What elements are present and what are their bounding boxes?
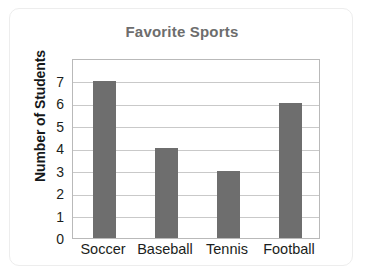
plot-area	[72, 59, 320, 239]
x-tick-label: Football	[258, 241, 320, 257]
y-tick-label: 0	[44, 232, 64, 246]
y-tick-label: 1	[44, 210, 64, 224]
bar[interactable]	[279, 103, 302, 238]
chart-card: Favorite Sports Number of Students 01234…	[9, 8, 353, 266]
chart-title: Favorite Sports	[10, 23, 354, 40]
x-tick-label: Baseball	[134, 241, 196, 257]
y-tick-label: 7	[44, 75, 64, 89]
bar[interactable]	[155, 148, 178, 238]
y-tick-label: 6	[44, 97, 64, 111]
x-tick-label: Tennis	[196, 241, 258, 257]
y-tick-label: 2	[44, 187, 64, 201]
x-tick-label: Soccer	[72, 241, 134, 257]
bar[interactable]	[217, 171, 240, 239]
y-tick-label: 4	[44, 142, 64, 156]
y-axis-tick-labels: 01234567	[44, 51, 64, 239]
x-axis-tick-labels: SoccerBaseballTennisFootball	[72, 241, 320, 263]
y-tick-label: 3	[44, 165, 64, 179]
bar[interactable]	[93, 81, 116, 239]
y-tick-label: 5	[44, 120, 64, 134]
